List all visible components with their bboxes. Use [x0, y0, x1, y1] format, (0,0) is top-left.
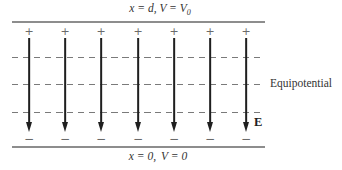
field-line	[100, 38, 102, 123]
minus-charge: −	[96, 134, 106, 145]
plus-charge: +	[24, 26, 33, 37]
bottom-plate-label-right: V = 0	[161, 150, 187, 162]
field-line	[209, 38, 211, 123]
top-plate-label: x = d, V = V0	[60, 2, 260, 17]
field-line	[28, 38, 30, 123]
minus-charge: −	[205, 134, 215, 145]
field-arrowhead-icon	[98, 122, 104, 132]
minus-charge: −	[24, 134, 34, 145]
electric-field-label: E	[254, 115, 262, 130]
field-arrowhead-icon	[62, 122, 68, 132]
minus-charge: −	[60, 134, 70, 145]
field-line	[64, 38, 66, 123]
field-line	[137, 38, 139, 123]
minus-charge: −	[169, 134, 179, 145]
bottom-plate-label: x = 0,V = 0	[58, 150, 258, 162]
top-plate-label-main: x = d, V = V	[129, 2, 186, 14]
field-arrowhead-icon	[135, 122, 141, 132]
field-arrowhead-icon	[207, 122, 213, 132]
field-arrowhead-icon	[26, 122, 32, 132]
equipotential-label: Equipotential	[270, 77, 332, 90]
plus-charge: +	[241, 26, 250, 37]
field-arrowhead-icon	[243, 122, 249, 132]
field-arrowhead-icon	[171, 122, 177, 132]
top-plate-line	[12, 21, 265, 23]
plus-charge: +	[96, 26, 105, 37]
bottom-plate-line	[12, 146, 265, 148]
field-line	[173, 38, 175, 123]
plus-charge: +	[169, 26, 178, 37]
top-plate-label-subscript: 0	[187, 8, 191, 17]
capacitor-field-diagram: x = d, V = V0 Equipotential E x = 0,V = …	[0, 0, 342, 170]
bottom-plate-label-left: x = 0,	[129, 150, 156, 162]
minus-charge: −	[133, 134, 143, 145]
plus-charge: +	[205, 26, 214, 37]
field-line	[245, 38, 247, 123]
plus-charge: +	[60, 26, 69, 37]
plus-charge: +	[133, 26, 142, 37]
minus-charge: −	[241, 134, 251, 145]
